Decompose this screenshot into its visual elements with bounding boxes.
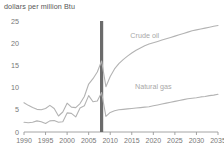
x-tick-2035: 2035 [210, 137, 224, 144]
y-tick-20: 20 [11, 39, 19, 48]
y-axis-tick-labels: 0510152025 [11, 17, 19, 137]
line-chart-plot: 0510152025 19901995200020052010201520202… [0, 0, 224, 151]
annotation-crude-oil: Crude oil [130, 31, 159, 40]
y-tick-0: 0 [15, 128, 19, 137]
series-line-crude-oil [24, 25, 218, 116]
x-tick-2010: 2010 [102, 137, 118, 144]
x-tick-2000: 2000 [59, 137, 75, 144]
x-tick-2015: 2015 [124, 137, 140, 144]
y-tick-15: 15 [11, 61, 19, 70]
x-tick-2020: 2020 [146, 137, 162, 144]
y-tick-5: 5 [15, 105, 19, 114]
projection-divider [100, 21, 103, 132]
projection-divider-bar [100, 21, 103, 132]
x-axis-tick-labels: 1990199520002005201020152020202520302035 [16, 137, 224, 144]
y-tick-25: 25 [11, 17, 19, 26]
data-series-lines [24, 25, 218, 123]
series-annotations: Crude oilNatural gas [130, 31, 172, 92]
x-tick-1990: 1990 [16, 137, 32, 144]
y-tick-10: 10 [11, 83, 19, 92]
x-tick-2025: 2025 [167, 137, 183, 144]
x-tick-2030: 2030 [189, 137, 205, 144]
x-tick-1995: 1995 [38, 137, 54, 144]
x-tick-2005: 2005 [81, 137, 97, 144]
chart-container: dollars per million Btu 0510152025 19901… [0, 0, 224, 151]
annotation-natural-gas: Natural gas [135, 82, 172, 91]
